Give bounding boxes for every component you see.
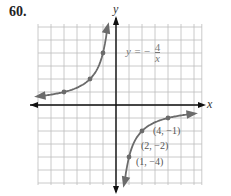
y-axis-up-arrow-icon: [113, 16, 119, 25]
graph: [0, 0, 231, 196]
x-axis-label: x: [207, 97, 212, 112]
point-label-2-neg2: (2, −2): [141, 140, 168, 151]
point-label-4-neg1: (4, −1): [153, 125, 180, 136]
y-axis-label: y: [113, 2, 118, 17]
equation-label: y = − 4 x: [126, 42, 160, 63]
y-axis-down-arrow-icon: [113, 186, 119, 194]
point-label-1-neg4: (1, −4): [136, 156, 163, 167]
axes: [30, 16, 206, 194]
x-axis-left-arrow-icon: [30, 102, 38, 108]
